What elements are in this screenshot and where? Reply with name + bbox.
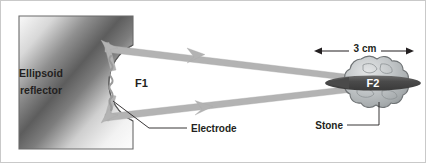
ellipsoid-reflector: [19, 16, 133, 149]
reflector-label-line1: Ellipsoid: [19, 67, 63, 79]
lithotripsy-diagram-figure: 3 cm Ellipsoid reflector F1 F2 Electrode…: [0, 0, 426, 163]
ray-lower-outgoing: [105, 86, 353, 121]
electrode-label: Electrode: [191, 123, 237, 134]
reflector-label-line2: reflector: [20, 84, 62, 96]
dimension-arrowhead-left: [314, 48, 322, 55]
focus1-label: F1: [135, 77, 148, 89]
stone-label: Stone: [315, 120, 343, 131]
diagram-canvas: 3 cm Ellipsoid reflector F1 F2 Electrode…: [1, 1, 426, 163]
focus2-label: F2: [367, 77, 380, 89]
reflector-body: [19, 16, 133, 149]
dimension-3cm: 3 cm: [314, 42, 414, 55]
dimension-label: 3 cm: [354, 43, 377, 54]
dimension-arrowhead-right: [406, 48, 414, 55]
